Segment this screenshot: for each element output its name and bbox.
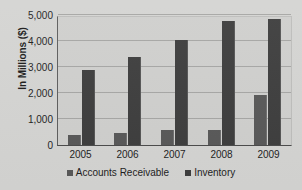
y-axis-tick-labels: 01,0002,0003,0004,0005,000 [8,10,53,150]
y-axis-tick: 3,000 [8,63,53,73]
x-axis-tick: 2008 [198,149,245,160]
bar[interactable] [222,21,235,145]
y-axis-tick: 4,000 [8,37,53,47]
y-axis-tick: 5,000 [8,11,53,21]
legend-entry[interactable]: Accounts Receivable [67,167,169,178]
bar[interactable] [161,130,174,145]
bar[interactable] [114,133,127,145]
bar[interactable] [268,19,281,145]
bar-group [105,17,152,145]
bar-group [244,17,291,145]
gridline [58,14,291,15]
bar-chart-figure: In Millions ($) 01,0002,0003,0004,0005,0… [0,0,302,190]
bar[interactable] [82,70,95,145]
y-axis-tick: 2,000 [8,89,53,99]
x-axis-tick: 2009 [245,149,292,160]
bar[interactable] [208,130,221,145]
bar[interactable] [68,135,81,145]
plot-area [57,16,292,146]
bar[interactable] [175,40,188,145]
y-axis-tick: 1,000 [8,115,53,125]
y-axis-tick: 0 [8,141,53,151]
bar[interactable] [128,57,141,145]
legend-swatch-icon [67,170,73,176]
chart-legend: Accounts ReceivableInventory [0,167,302,178]
x-axis-tick: 2006 [104,149,151,160]
bar-group [151,17,198,145]
legend-entry[interactable]: Inventory [185,167,235,178]
bar-group [198,17,245,145]
bar[interactable] [254,95,267,145]
bar-group [58,17,105,145]
x-axis-tick: 2005 [57,149,104,160]
bars-layer [58,17,291,145]
legend-label: Accounts Receivable [76,167,169,178]
legend-label: Inventory [194,167,235,178]
x-axis-tick: 2007 [151,149,198,160]
x-axis-tick-labels: 20052006200720082009 [57,149,292,160]
legend-swatch-icon [185,170,191,176]
